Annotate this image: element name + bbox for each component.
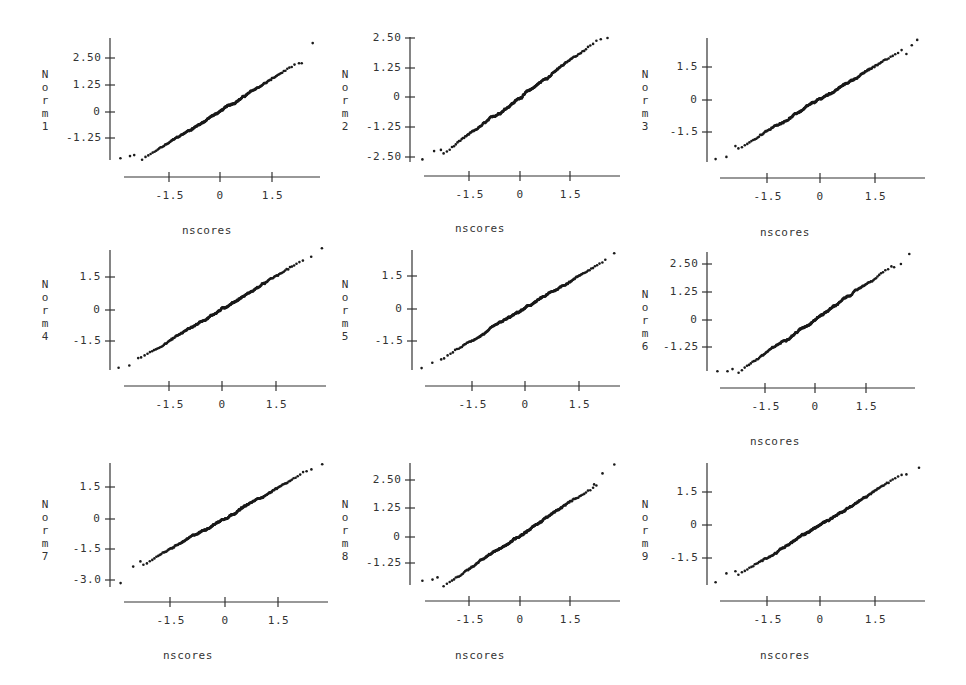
data-point xyxy=(290,66,293,69)
x-tick-label: 0 xyxy=(522,399,529,410)
data-point xyxy=(741,146,744,149)
data-point xyxy=(716,370,719,373)
qq-panel-1 xyxy=(105,38,320,182)
data-point xyxy=(443,357,446,360)
data-point xyxy=(453,145,456,148)
data-point xyxy=(440,358,443,361)
data-point xyxy=(897,52,900,55)
data-point xyxy=(293,63,296,66)
data-point xyxy=(737,147,740,150)
data-point xyxy=(585,491,588,494)
y-tick-label: 0 xyxy=(690,94,697,105)
data-point xyxy=(143,354,146,357)
data-point xyxy=(598,262,601,265)
data-point xyxy=(298,62,301,65)
y-tick-label: 2.50 xyxy=(373,32,402,43)
data-point xyxy=(746,568,749,571)
data-point xyxy=(918,467,921,470)
data-point xyxy=(593,483,596,486)
data-point xyxy=(119,582,122,585)
data-point xyxy=(421,579,424,582)
data-point xyxy=(601,261,604,264)
data-point xyxy=(299,473,302,476)
x-axis-label: nscores xyxy=(163,650,213,661)
data-point xyxy=(449,352,452,355)
data-point xyxy=(893,266,896,269)
x-tick-label: -1.5 xyxy=(751,401,780,412)
y-tick-label: 0 xyxy=(690,519,697,530)
x-tick-label: 1.5 xyxy=(560,614,581,625)
data-point xyxy=(139,560,142,563)
data-point xyxy=(455,143,458,146)
y-tick-label: 1.25 xyxy=(73,79,102,90)
data-point xyxy=(321,463,324,466)
x-tick-label: -1.5 xyxy=(753,614,782,625)
x-tick-label: 0 xyxy=(817,191,824,202)
y-axis-label: Norm7 xyxy=(40,498,50,563)
data-point xyxy=(897,475,900,478)
data-point xyxy=(133,154,136,157)
y-tick-label: -1.25 xyxy=(366,121,402,132)
qq-panel-9 xyxy=(702,463,925,606)
x-tick-label: 0 xyxy=(219,399,226,410)
data-point xyxy=(149,560,152,563)
data-point xyxy=(894,53,897,56)
data-point xyxy=(287,268,290,271)
data-point xyxy=(117,366,120,369)
data-point xyxy=(592,267,595,270)
y-axis-label: Norm4 xyxy=(40,278,50,343)
data-point xyxy=(908,253,911,256)
x-tick-label: 1.5 xyxy=(268,615,289,626)
data-point xyxy=(448,581,451,584)
x-axis-label: nscores xyxy=(455,650,505,661)
data-point xyxy=(725,156,728,159)
data-point xyxy=(595,484,598,487)
y-axis-label: Norm8 xyxy=(340,498,350,563)
data-point xyxy=(592,486,595,489)
data-point xyxy=(436,576,439,579)
data-point xyxy=(446,354,449,357)
data-point xyxy=(293,264,296,267)
data-point xyxy=(741,369,744,372)
x-tick-label: -1.5 xyxy=(753,191,782,202)
data-point xyxy=(151,559,154,562)
qq-panel-2 xyxy=(405,37,620,181)
y-tick-label: 2.50 xyxy=(670,258,699,269)
data-point xyxy=(746,143,749,146)
data-point xyxy=(295,263,298,266)
data-point xyxy=(884,269,887,272)
x-tick-label: 1.5 xyxy=(865,614,886,625)
x-axis-label: nscores xyxy=(750,436,800,447)
data-point xyxy=(744,570,747,573)
data-point xyxy=(284,70,287,73)
data-point xyxy=(446,150,449,153)
data-point xyxy=(744,144,747,147)
x-tick-label: 1.5 xyxy=(856,401,877,412)
y-tick-label: 1.5 xyxy=(677,61,698,72)
data-point xyxy=(132,565,135,568)
data-point xyxy=(305,470,308,473)
y-tick-label: 2.50 xyxy=(73,52,102,63)
y-tick-label: -1.5 xyxy=(73,335,102,346)
data-point xyxy=(587,489,590,492)
x-tick-label: -1.5 xyxy=(458,399,487,410)
data-point xyxy=(146,562,149,565)
y-tick-label: 0 xyxy=(395,303,402,314)
y-tick-label: 0 xyxy=(93,106,100,117)
qq-panel-5 xyxy=(407,250,620,391)
data-point xyxy=(431,578,434,581)
data-point xyxy=(891,55,894,58)
y-tick-label: -1.25 xyxy=(663,341,699,352)
x-tick-label: 1.5 xyxy=(262,190,283,201)
data-point xyxy=(291,265,294,268)
x-axis-label: nscores xyxy=(455,223,505,234)
data-point xyxy=(433,150,436,153)
data-point xyxy=(137,357,140,360)
y-tick-label: -1.5 xyxy=(375,335,404,346)
data-point xyxy=(302,259,305,262)
y-tick-label: -1.5 xyxy=(73,543,102,554)
data-point xyxy=(585,48,588,51)
data-point xyxy=(302,471,305,474)
x-tick-label: 1.5 xyxy=(560,189,581,200)
x-tick-label: 0 xyxy=(517,189,524,200)
